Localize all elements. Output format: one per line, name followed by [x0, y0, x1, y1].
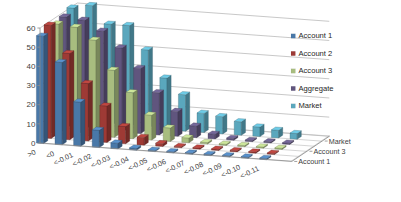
- y-tick-label: 0: [31, 139, 36, 148]
- y-tick-label: 20: [27, 100, 36, 109]
- legend-label: Account 3: [299, 66, 333, 75]
- y-tick-label: 10: [27, 120, 36, 129]
- legend-label: Account 2: [299, 49, 333, 58]
- y-tick-label: 50: [27, 43, 36, 52]
- legend-label: Aggregate: [299, 84, 334, 93]
- y-tick-label: 40: [27, 62, 36, 71]
- z-tick-label: Account 3: [313, 147, 345, 156]
- legend-swatch: [291, 34, 295, 38]
- legend-label: Account 1: [299, 31, 333, 40]
- y-tick-label: 60: [27, 24, 36, 33]
- legend-swatch: [291, 51, 295, 55]
- chart-container: 0102030405060 >0<0<-0.01<-0.02<-0.03<-0.…: [0, 0, 401, 202]
- bar-chart-3d: 0102030405060 >0<0<-0.01<-0.02<-0.03<-0.…: [0, 0, 401, 202]
- legend-label: Market: [299, 101, 323, 110]
- z-tick-label: Market: [329, 137, 351, 146]
- legend-swatch: [291, 86, 295, 90]
- legend-swatch: [291, 69, 295, 73]
- legend-swatch: [291, 104, 295, 108]
- z-tick-label: Account 1: [298, 157, 330, 166]
- y-tick-label: 30: [27, 81, 36, 90]
